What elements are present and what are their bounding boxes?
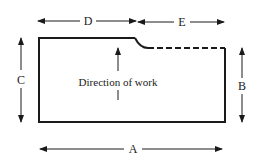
dimension-e: E [138,15,224,29]
dimension-a: A [40,142,222,156]
label-b: B [238,79,246,93]
dimension-b: B [238,48,246,122]
label-c: C [17,73,25,87]
label-d: D [84,14,93,28]
dimension-c: C [17,38,25,122]
label-a: A [129,142,138,156]
label-e: E [178,15,185,29]
dimension-d: D [38,14,136,28]
pattern-diagram: D E C B A Direction of work [0,0,261,162]
direction-text: Direction of work [79,76,158,88]
direction-of-work: Direction of work [79,48,158,100]
